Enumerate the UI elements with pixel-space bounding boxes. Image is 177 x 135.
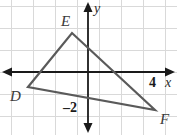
- y-axis: [84, 2, 93, 133]
- vertex-label-D: D: [10, 89, 21, 104]
- coordinate-plane-figure: E D F y x 4 –2: [0, 0, 177, 135]
- vertex-label-E: E: [61, 14, 70, 29]
- x-axis-arrow-left-icon: [2, 68, 12, 77]
- y-axis-arrow-up-icon: [84, 2, 93, 12]
- graph-canvas: [0, 0, 177, 135]
- y-axis-tick-label-neg2: –2: [63, 101, 77, 115]
- x-axis-label: x: [165, 76, 171, 90]
- vertex-label-F: F: [160, 112, 169, 127]
- x-axis-tick-label-4: 4: [149, 76, 156, 90]
- y-axis-label: y: [94, 2, 100, 16]
- y-axis-arrow-down-icon: [84, 123, 93, 133]
